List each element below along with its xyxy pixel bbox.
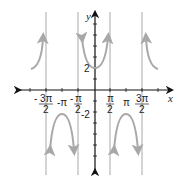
tick-neg-3pi-2-den: 2	[43, 104, 49, 115]
branch-left-down	[50, 114, 74, 150]
tick-neg-pi-2-num: π	[75, 93, 82, 104]
y-axis-label: y	[85, 10, 91, 22]
svg-text:-: -	[70, 93, 73, 104]
branch-right-down	[114, 114, 138, 150]
y-axis	[93, 14, 97, 172]
secant-graph: y x - 3π 2 -π - π 2 π 2 π 3π 2 2 -2	[0, 0, 184, 180]
tick-neg-pi: -π	[57, 97, 67, 108]
tick-pi-2-den: 2	[107, 104, 113, 115]
tick-pi-2-num: π	[107, 93, 114, 104]
branch-left-up	[31, 38, 43, 69]
x-tick-labels: - 3π 2 -π - π 2 π 2 π 3π 2	[34, 93, 149, 115]
svg-text:-: -	[34, 93, 37, 104]
tick-3pi-2-den: 2	[139, 104, 145, 115]
x-axis-label: x	[167, 92, 173, 104]
tick-3pi-2-num: 3π	[136, 93, 149, 104]
tick-neg-3pi-2-num: 3π	[40, 93, 53, 104]
x-axis	[18, 88, 170, 92]
y-tick-neg-2: -2	[81, 109, 90, 120]
asymptotes	[46, 12, 142, 175]
y-tick-2: 2	[84, 63, 90, 74]
tick-pi: π	[123, 97, 130, 108]
branch-right-up	[146, 38, 158, 69]
